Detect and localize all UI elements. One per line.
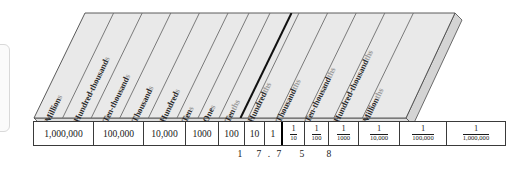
table-cell-ten-thousandths: 1 10,000 xyxy=(359,122,400,145)
table-cell-millionths: 1 1,000,000 xyxy=(447,122,505,145)
fraction: 1 1000 xyxy=(337,125,350,142)
table-cell-thousands: 1000 xyxy=(186,122,219,145)
place-value-table: 1,000,000 100,000 10,000 1000 100 10 1 1… xyxy=(33,121,506,146)
fraction-denominator: 10,000 xyxy=(370,135,388,142)
fraction-denominator: 10 xyxy=(290,135,297,142)
fraction-numerator: 1 xyxy=(474,125,478,134)
fraction: 1 1,000,000 xyxy=(463,125,489,142)
table-cell-hundredths: 1 100 xyxy=(305,122,329,145)
table-cell-hundred-thousandths: 1 100,000 xyxy=(400,122,447,145)
digit-ones: 7 xyxy=(257,148,262,159)
digit-thousandths: 8 xyxy=(327,148,332,159)
fraction-denominator: 1,000,000 xyxy=(463,135,489,142)
digit-hundredths: 5 xyxy=(300,148,305,159)
fraction-numerator: 1 xyxy=(421,125,425,134)
fraction: 1 100 xyxy=(312,125,322,142)
fraction: 1 10 xyxy=(290,125,297,142)
digit-tens: 1 xyxy=(238,148,243,159)
digit-tenths: 7 xyxy=(277,148,282,159)
decimal-point: . xyxy=(268,148,270,159)
table-cell-ten-thousands: 10,000 xyxy=(144,122,186,145)
fraction-numerator: 1 xyxy=(377,125,381,134)
cell-value: 10 xyxy=(250,128,260,139)
cell-value: 1000 xyxy=(192,128,211,139)
table-cell-tens: 10 xyxy=(245,122,265,145)
fraction-denominator: 100 xyxy=(312,135,322,142)
table-cell-hundreds: 100 xyxy=(219,122,245,145)
cell-value: 10,000 xyxy=(151,128,177,139)
fraction-denominator: 100,000 xyxy=(412,135,433,142)
cell-value: 1 xyxy=(271,128,276,139)
fraction-numerator: 1 xyxy=(291,125,295,134)
table-cell-tenths: 1 10 xyxy=(283,122,305,145)
cell-value: 100 xyxy=(224,128,238,139)
fraction-denominator: 1000 xyxy=(337,135,350,142)
table-cell-ones: 1 xyxy=(265,122,283,145)
table-cell-hundred-thousands: 100,000 xyxy=(94,122,144,145)
fraction-numerator: 1 xyxy=(341,125,345,134)
fraction: 1 10,000 xyxy=(370,125,388,142)
fraction: 1 100,000 xyxy=(412,125,433,142)
cell-value: 100,000 xyxy=(103,128,134,139)
cell-value: 1,000,000 xyxy=(44,128,82,139)
fraction-numerator: 1 xyxy=(314,125,318,134)
table-cell-thousandths: 1 1000 xyxy=(329,122,359,145)
table-cell-millions: 1,000,000 xyxy=(34,122,94,145)
